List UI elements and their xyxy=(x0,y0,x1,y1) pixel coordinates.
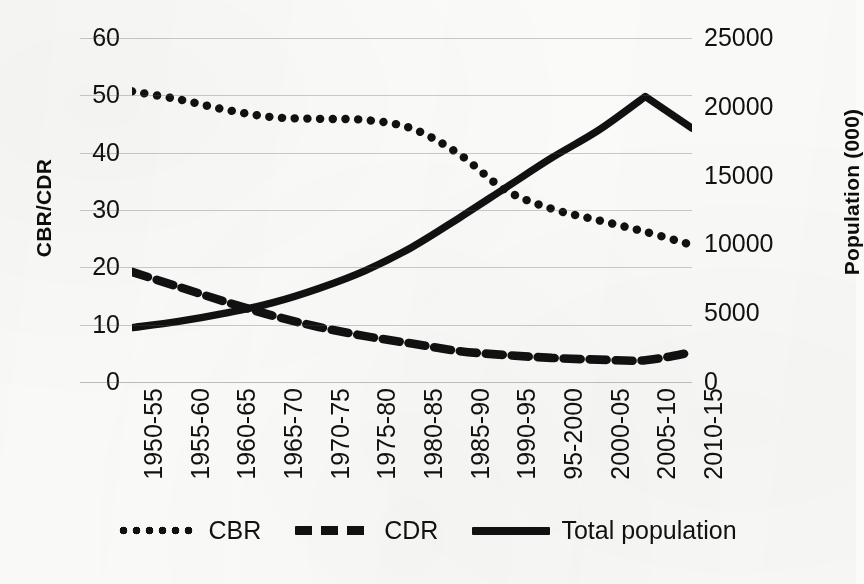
x-tick-2005-10: 2005-10 xyxy=(654,388,679,480)
y-right-tick-15000: 15000 xyxy=(704,163,836,188)
legend-item-cbr: CBR xyxy=(119,518,261,543)
x-tick-95-2000: 95-2000 xyxy=(561,388,586,480)
gridline-30 xyxy=(80,210,692,211)
x-tick-1960-65: 1960-65 xyxy=(234,388,259,480)
legend-item-total-population: Total population xyxy=(472,518,736,543)
x-axis-category-labels: 1950-551955-601960-651965-701970-751975-… xyxy=(132,382,692,383)
y-axis-left-ticks: 0102030405060 xyxy=(38,0,120,584)
plot-area xyxy=(132,38,692,382)
y-right-tick-25000: 25000 xyxy=(704,25,836,50)
x-tick-1950-55: 1950-55 xyxy=(141,388,166,480)
y-right-tick-5000: 5000 xyxy=(704,300,836,325)
x-tick-1990-95: 1990-95 xyxy=(514,388,539,480)
gridline-20 xyxy=(80,267,692,268)
series-line-total-population xyxy=(132,96,692,327)
gridline-10 xyxy=(80,325,692,326)
x-tick-1955-60: 1955-60 xyxy=(188,388,213,480)
legend-label: Total population xyxy=(561,518,736,543)
series-line-cbr xyxy=(132,91,692,245)
legend-label: CBR xyxy=(208,518,261,543)
y-axis-right-title: Population (000) xyxy=(840,77,864,307)
chart-legend: CBRCDRTotal population xyxy=(0,518,856,543)
x-tick-2010-15: 2010-15 xyxy=(701,388,726,480)
gridline-60 xyxy=(80,38,692,39)
y-axis-right-ticks: 0500010000150002000025000 xyxy=(704,0,836,584)
x-tick-1985-90: 1985-90 xyxy=(468,388,493,480)
legend-swatch-solid-icon xyxy=(472,527,550,535)
x-tick-1965-70: 1965-70 xyxy=(281,388,306,480)
legend-label: CDR xyxy=(384,518,438,543)
x-tick-1975-80: 1975-80 xyxy=(374,388,399,480)
x-tick-2000-05: 2000-05 xyxy=(608,388,633,480)
legend-swatch-dashed-icon xyxy=(295,526,373,535)
gridline-40 xyxy=(80,153,692,154)
x-tick-1980-85: 1980-85 xyxy=(421,388,446,480)
x-tick-1970-75: 1970-75 xyxy=(328,388,353,480)
y-right-tick-10000: 10000 xyxy=(704,231,836,256)
legend-swatch-dotted-icon xyxy=(119,526,197,535)
y-right-tick-20000: 20000 xyxy=(704,94,836,119)
gridline-50 xyxy=(80,95,692,96)
legend-item-cdr: CDR xyxy=(295,518,438,543)
